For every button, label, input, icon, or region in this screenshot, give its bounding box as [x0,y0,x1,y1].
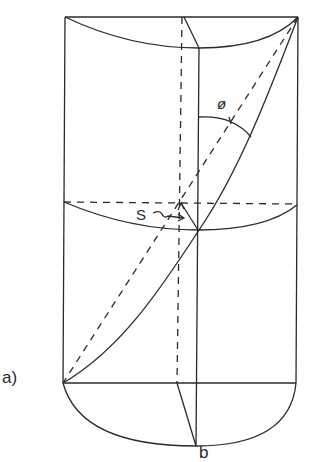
phi-arc [199,117,251,137]
left-edge [63,17,65,383]
s-label: S [136,207,146,222]
top-slant-line [184,17,199,48]
bottom-label: b [199,444,208,461]
front-vertical-line [196,48,199,446]
bottom-slant-line [177,383,196,446]
diagonal-dashed [63,17,298,383]
back-vertical-dashed [177,17,182,383]
phi-angle-label: ø [217,96,226,111]
right-edge [296,17,298,383]
panel-label: a) [2,369,17,386]
